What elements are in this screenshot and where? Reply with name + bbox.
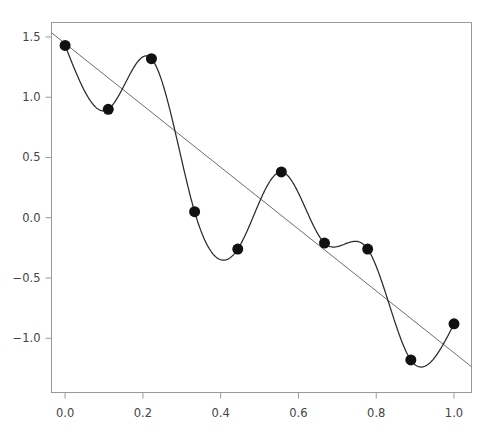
x-tick-label: 0.4: [212, 406, 230, 420]
x-tick-label: 1.0: [445, 406, 463, 420]
data-point-marker: [449, 318, 460, 329]
y-axis-ticks: 1.51.00.50.0−0.5−1.0: [13, 30, 52, 345]
chart-container: 1.51.00.50.0−0.5−1.0 0.00.20.40.60.81.0: [0, 0, 493, 444]
y-tick-label: −0.5: [13, 271, 41, 285]
data-point-marker: [146, 53, 157, 64]
y-tick-label: 0.0: [22, 211, 40, 225]
x-tick-label: 0.0: [56, 406, 74, 420]
plot-frame: [52, 23, 472, 393]
y-tick-label: 1.5: [22, 30, 40, 44]
data-point-marker: [276, 166, 287, 177]
data-point-marker: [103, 104, 114, 115]
data-point-marker: [362, 244, 373, 255]
y-tick-label: 0.5: [22, 150, 40, 164]
data-point-marker: [405, 354, 416, 365]
y-tick-label: 1.0: [22, 90, 40, 104]
x-tick-label: 0.6: [289, 406, 307, 420]
x-tick-label: 0.2: [134, 406, 152, 420]
x-axis-ticks: 0.00.20.40.60.81.0: [56, 393, 463, 420]
data-point-marker: [232, 244, 243, 255]
data-point-marker: [319, 238, 330, 249]
spline-curve-group: [65, 45, 454, 367]
x-tick-label: 0.8: [367, 406, 385, 420]
scatter-plot-svg: 1.51.00.50.0−0.5−1.0 0.00.20.40.60.81.0: [0, 0, 493, 444]
data-point-marker: [189, 206, 200, 217]
y-tick-label: −1.0: [13, 331, 41, 345]
plot-frame-group: [52, 23, 472, 393]
interpolating-spline-curve: [65, 45, 454, 367]
data-point-marker: [60, 40, 71, 51]
regression-line-group: [52, 33, 472, 367]
linear-regression-line: [52, 33, 472, 367]
